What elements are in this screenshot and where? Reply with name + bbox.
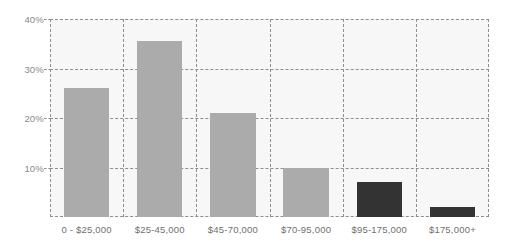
gridline-x-3: [270, 19, 271, 217]
bar-chart: 40%30%20%10% 0 - $25,000$25-45,000$45-70…: [0, 0, 512, 252]
y-tick-label-40: 40%: [0, 14, 44, 25]
bar-1[interactable]: [64, 88, 109, 217]
x-tick-label-6: $175,000+: [429, 224, 476, 235]
bar-3[interactable]: [210, 113, 255, 217]
x-tick-label-5: $95-175,000: [351, 224, 407, 235]
y-tick-label-30: 30%: [0, 63, 44, 74]
x-tick-label-1: 0 - $25,000: [61, 224, 111, 235]
bar-4[interactable]: [283, 168, 328, 218]
y-tick-mark-30: [44, 69, 51, 70]
gridline-x-4: [343, 19, 344, 217]
y-tick-mark-10: [44, 168, 51, 169]
y-axis-tick-labels: 40%30%20%10%: [0, 19, 44, 217]
bar-2[interactable]: [137, 41, 182, 217]
y-tick-mark-20: [44, 118, 51, 119]
x-axis-tick-labels: 0 - $25,000$25-45,000$45-70,000$70-95,00…: [50, 224, 489, 244]
y-tick-label-10: 10%: [0, 162, 44, 173]
bar-5[interactable]: [357, 182, 402, 217]
bar-6[interactable]: [430, 207, 475, 217]
y-tick-label-20: 20%: [0, 113, 44, 124]
gridline-x-1: [123, 19, 124, 217]
x-tick-label-2: $25-45,000: [135, 224, 185, 235]
gridline-x-2: [196, 19, 197, 217]
gridline-x-5: [416, 19, 417, 217]
x-tick-label-4: $70-95,000: [281, 224, 331, 235]
x-tick-label-3: $45-70,000: [208, 224, 258, 235]
y-tick-mark-40: [44, 19, 51, 20]
plot-area: [50, 19, 489, 217]
